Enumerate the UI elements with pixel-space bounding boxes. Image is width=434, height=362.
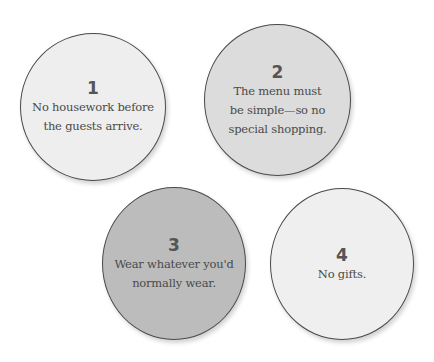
rule-text-line: No gifts. <box>318 265 366 284</box>
rule-circle-2: 2 The menu must be simple—so no special … <box>204 24 351 176</box>
rule-text-line: the guests arrive. <box>43 117 142 136</box>
rule-text-line: special shopping. <box>228 120 326 139</box>
rule-circle-3: 3 Wear whatever you'd normally wear. <box>102 187 246 340</box>
rule-circle-4: 4 No gifts. <box>270 188 414 340</box>
rule-circle-1: 1 No housework before the guests arrive. <box>20 33 166 181</box>
rule-number: 4 <box>336 245 348 265</box>
rule-text-line: be simple—so no <box>230 101 325 120</box>
rule-number: 1 <box>87 78 99 98</box>
rule-text-line: normally wear. <box>132 274 216 293</box>
rule-text-line: Wear whatever you'd <box>114 255 233 274</box>
rule-text-line: The menu must <box>234 82 322 101</box>
rule-number: 3 <box>168 235 180 255</box>
rule-text-line: No housework before <box>32 98 154 117</box>
rule-number: 2 <box>272 62 284 82</box>
